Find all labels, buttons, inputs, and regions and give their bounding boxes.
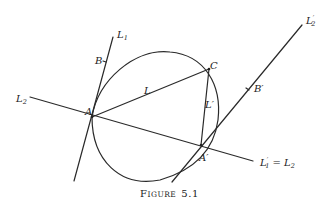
label-L: L: [143, 85, 151, 96]
label-L2prime: L′2: [305, 14, 315, 28]
label-B: B: [94, 55, 102, 66]
label-Aprime: A′: [198, 152, 209, 163]
label-C: C: [210, 60, 218, 71]
point-Bprime-tick: [246, 88, 249, 90]
label-L1: L1: [116, 29, 128, 42]
line-L2: [30, 97, 253, 161]
point-B-tick: [103, 61, 106, 62]
label-Bprime: B′: [253, 83, 264, 94]
point-Aprime: [200, 144, 203, 147]
line-L1: [74, 37, 113, 181]
projective-diagram: L1 B L2 A L C L′ B′ L′2 A′ L′1 = L2 FIGU…: [0, 0, 333, 206]
label-A: A: [84, 106, 92, 117]
label-Lprime: L′: [204, 99, 215, 110]
label-L1prime-eq-L2: L′1 = L2: [259, 156, 295, 170]
figure-caption: FIGURE5.1: [140, 188, 199, 199]
label-L2: L2: [15, 93, 27, 106]
